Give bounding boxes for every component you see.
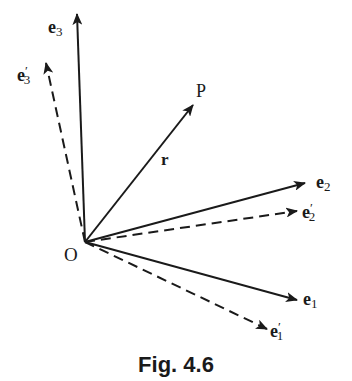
vector-e1-prime — [85, 242, 267, 329]
vector-diagram: O P r e3 e′3 e2 e′2 e1 e′1 — [0, 0, 352, 381]
vector-e2-prime — [85, 211, 297, 242]
e3-label: e3 — [48, 17, 63, 39]
e2-prime-label: e′2 — [302, 200, 315, 224]
r-label: r — [161, 150, 169, 169]
origin-label: O — [64, 244, 78, 265]
e3-prime-label: e′3 — [17, 63, 30, 87]
vector-e2 — [85, 183, 305, 242]
e1-prime-label: e′1 — [270, 319, 283, 343]
figure-caption: Fig. 4.6 — [0, 352, 352, 378]
e1-label: e1 — [303, 289, 318, 311]
vector-r — [85, 105, 193, 242]
vector-e1 — [85, 242, 297, 300]
e2-label: e2 — [316, 172, 331, 194]
point-label: P — [196, 81, 206, 101]
